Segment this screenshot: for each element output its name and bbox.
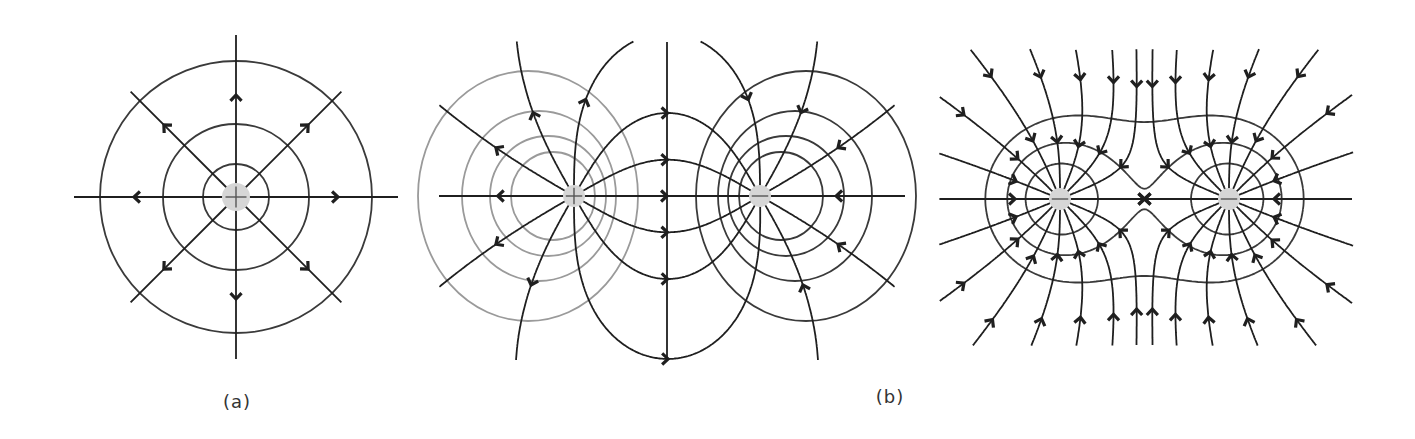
field-line — [1230, 50, 1318, 196]
field-line — [701, 42, 760, 194]
figure-stage: (a) (b) — [0, 0, 1415, 439]
field-line — [1061, 202, 1082, 346]
field-line — [1063, 200, 1137, 345]
field-line — [1230, 202, 1316, 346]
field-line — [236, 92, 341, 197]
field-line — [131, 197, 236, 302]
field-line — [1061, 50, 1082, 196]
field-line — [517, 42, 573, 194]
field-line — [574, 42, 633, 194]
field-line — [762, 42, 818, 194]
field-line — [1207, 50, 1228, 196]
field-line — [940, 97, 1058, 197]
field-line — [971, 50, 1059, 196]
field-line — [1063, 49, 1137, 198]
field-line — [973, 202, 1059, 346]
field-diagram-svg — [0, 0, 1415, 439]
field-line — [940, 201, 1058, 301]
field-line — [1152, 49, 1226, 198]
field-line — [131, 92, 236, 197]
field-line — [1231, 201, 1352, 303]
field-line — [939, 154, 1057, 198]
field-line — [939, 200, 1057, 244]
field-line — [236, 197, 341, 302]
panel-a-point-charge — [74, 35, 398, 359]
field-line — [1231, 95, 1352, 197]
field-line — [1152, 200, 1226, 345]
field-line — [1207, 202, 1228, 346]
panel-c-two-negative-charges — [939, 49, 1353, 346]
panel-label-a: (a) — [223, 391, 251, 412]
panel-b-dipole — [418, 42, 916, 364]
panel-label-b: (b) — [876, 386, 904, 407]
